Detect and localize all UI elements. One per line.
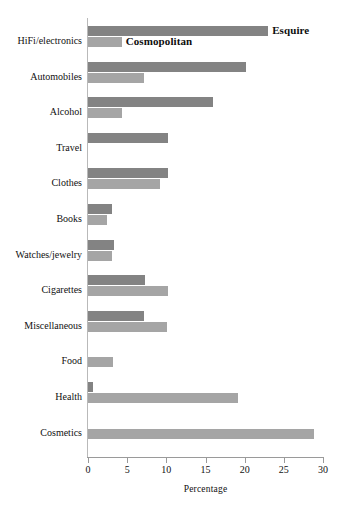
category-label: Clothes [0, 177, 82, 189]
bar-group: Food [0, 346, 344, 367]
series-label-cosmopolitan: Cosmopolitan [126, 35, 193, 47]
category-label: Automobiles [0, 71, 82, 83]
bar-esquire [88, 62, 246, 72]
x-axis-title: Percentage [87, 484, 324, 494]
bar-cosmopolitan [88, 215, 107, 225]
bar-group: Automobiles [0, 62, 344, 83]
category-label: Cosmetics [0, 427, 82, 439]
bar-esquire [88, 382, 93, 392]
x-axis-tick [206, 458, 207, 463]
bar-esquire [88, 275, 145, 285]
bar-esquire [88, 311, 144, 321]
category-label: Books [0, 213, 82, 225]
series-label-esquire: Esquire [272, 24, 309, 36]
x-axis-tick [88, 458, 89, 463]
x-axis-tick [245, 458, 246, 463]
category-label: Alcohol [0, 106, 82, 118]
bar-cosmopolitan [88, 73, 144, 83]
bar-group: Cigarettes [0, 275, 344, 296]
bar-group: Watches/jewelry [0, 240, 344, 261]
bar-esquire [88, 204, 112, 214]
bar-group: Alcohol [0, 97, 344, 118]
bar-group: Books [0, 204, 344, 225]
category-label: Cigarettes [0, 284, 82, 296]
x-axis-tick [166, 458, 167, 463]
bar-group: Travel [0, 133, 344, 154]
category-label: Food [0, 355, 82, 367]
x-axis-tick-label: 20 [230, 464, 260, 476]
bar-cosmopolitan [88, 286, 168, 296]
bar-esquire [88, 97, 213, 107]
bar-cosmopolitan [88, 429, 314, 439]
x-axis-tick [323, 458, 324, 463]
bar-group: Cosmetics [0, 418, 344, 439]
bar-esquire [88, 240, 114, 250]
category-label: Watches/jewelry [0, 249, 82, 261]
bar-cosmopolitan [88, 179, 160, 189]
x-axis-tick [284, 458, 285, 463]
bar-cosmopolitan [88, 37, 122, 47]
x-axis-tick-label: 30 [308, 464, 338, 476]
bar-cosmopolitan [88, 322, 167, 332]
x-axis-tick-label: 15 [191, 464, 221, 476]
x-axis-tick-label: 10 [151, 464, 181, 476]
bar-chart: 051015202530 HiFi/electronicsAutomobiles… [0, 0, 344, 522]
bar-esquire [88, 133, 168, 143]
category-label: Travel [0, 142, 82, 154]
category-label: Health [0, 391, 82, 403]
bar-cosmopolitan [88, 357, 113, 367]
bar-group: Health [0, 382, 344, 403]
bar-cosmopolitan [88, 108, 122, 118]
bar-esquire [88, 168, 168, 178]
x-axis-tick [127, 458, 128, 463]
bar-group: Clothes [0, 168, 344, 189]
x-axis-tick-label: 0 [73, 464, 103, 476]
category-label: HiFi/electronics [0, 35, 82, 47]
bar-cosmopolitan [88, 251, 112, 261]
x-axis-tick-label: 5 [112, 464, 142, 476]
plot-area: 051015202530 HiFi/electronicsAutomobiles… [0, 0, 344, 522]
bar-cosmopolitan [88, 393, 238, 403]
x-axis-tick-label: 25 [269, 464, 299, 476]
category-label: Miscellaneous [0, 320, 82, 332]
bar-group: Miscellaneous [0, 311, 344, 332]
